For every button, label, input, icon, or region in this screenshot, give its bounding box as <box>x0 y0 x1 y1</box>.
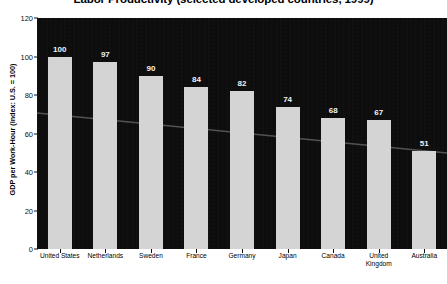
y-axis-tick-label: 100 <box>0 52 33 61</box>
x-axis-tick-mark <box>242 249 243 253</box>
bar-slot: 90 <box>128 18 174 249</box>
bar-series: 1009790848274686751 <box>37 18 447 249</box>
x-axis-tick-mark <box>151 249 152 253</box>
bar[interactable] <box>367 120 391 249</box>
x-axis-category-label: Canada <box>310 252 356 268</box>
bar-slot: 97 <box>83 18 129 249</box>
x-axis-category-label: France <box>174 252 220 268</box>
x-axis-category-label: United States <box>37 252 83 268</box>
bar[interactable] <box>276 107 300 249</box>
bar-slot: 100 <box>37 18 83 249</box>
bar[interactable] <box>139 76 163 249</box>
bar-value-label: 100 <box>53 45 66 54</box>
bar[interactable] <box>93 62 117 249</box>
bar-slot: 82 <box>219 18 265 249</box>
bar-slot: 51 <box>402 18 447 249</box>
x-axis-category-label: Sweden <box>128 252 174 268</box>
bar[interactable] <box>412 151 436 249</box>
plot-area: 1009790848274686751 <box>37 18 447 249</box>
x-axis-category-label: Australia <box>402 252 447 268</box>
x-axis-tick-mark <box>196 249 197 253</box>
bar[interactable] <box>321 118 345 249</box>
bar-value-label: 90 <box>146 64 155 73</box>
bar[interactable] <box>48 57 72 250</box>
bar-value-label: 82 <box>238 79 247 88</box>
y-axis-tick-label: 20 <box>0 206 33 215</box>
x-axis-category-labels: United StatesNetherlandsSwedenFranceGerm… <box>37 252 447 268</box>
x-axis-tick-mark <box>288 249 289 253</box>
chart-title: Labor Productivity (selected developed c… <box>0 0 447 5</box>
labor-productivity-bar-chart: Labor Productivity (selected developed c… <box>0 0 447 284</box>
x-axis-category-label: Netherlands <box>83 252 129 268</box>
y-axis-tick-label: 40 <box>0 168 33 177</box>
y-axis-tick-label: 0 <box>0 245 33 254</box>
y-axis-tick-label: 120 <box>0 14 33 23</box>
x-axis-tick-mark <box>333 249 334 253</box>
bar-slot: 68 <box>310 18 356 249</box>
bar-value-label: 68 <box>329 106 338 115</box>
x-axis-tick-mark <box>424 249 425 253</box>
x-axis-category-label: United Kingdom <box>356 252 402 268</box>
bar-value-label: 74 <box>283 95 292 104</box>
x-axis-tick-mark <box>60 249 61 253</box>
bar-value-label: 67 <box>374 108 383 117</box>
bar-slot: 84 <box>174 18 220 249</box>
bar[interactable] <box>230 91 254 249</box>
bar[interactable] <box>184 87 208 249</box>
x-axis-category-label: Germany <box>219 252 265 268</box>
y-axis-tick-label: 60 <box>0 129 33 138</box>
x-axis-category-label: Japan <box>265 252 311 268</box>
bar-value-label: 84 <box>192 75 201 84</box>
bar-slot: 74 <box>265 18 311 249</box>
bar-slot: 67 <box>356 18 402 249</box>
bar-value-label: 97 <box>101 50 110 59</box>
bar-value-label: 51 <box>420 139 429 148</box>
x-axis-tick-mark <box>105 249 106 253</box>
y-axis-tick-label: 80 <box>0 91 33 100</box>
x-axis-tick-mark <box>379 249 380 253</box>
